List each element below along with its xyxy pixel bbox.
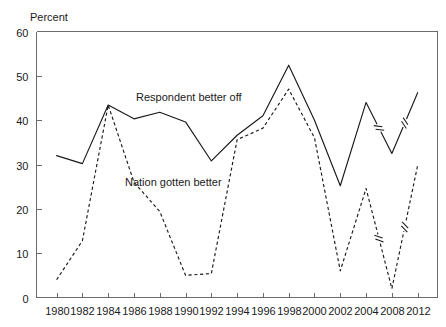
x-tick-label-2000: 2000: [302, 305, 326, 317]
x-axis-tick-labels: 1980198219841986198819901992199419961998…: [45, 305, 430, 317]
y-tick-label-50: 50: [16, 71, 28, 83]
line-chart-figure: Percent 0102030405060 198019821984198619…: [0, 0, 446, 327]
x-tick-label-1986: 1986: [122, 305, 146, 317]
series-label-respondent-better-off: Respondent better off: [136, 91, 243, 103]
y-axis-tick-labels: 0102030405060: [16, 27, 28, 305]
series-line-nation-gotten-better: [57, 89, 418, 289]
x-tick-label-1994: 1994: [225, 305, 249, 317]
x-tick-label-1988: 1988: [148, 305, 172, 317]
x-tick-label-1982: 1982: [70, 305, 94, 317]
y-axis-ticks: [37, 77, 42, 254]
x-tick-label-1984: 1984: [96, 305, 120, 317]
x-tick-label-1980: 1980: [45, 305, 69, 317]
chart-container: Percent 0102030405060 198019821984198619…: [0, 0, 446, 327]
y-tick-label-10: 10: [16, 248, 28, 260]
x-tick-label-1996: 1996: [251, 305, 275, 317]
x-tick-label-1990: 1990: [174, 305, 198, 317]
x-axis-ticks: [58, 293, 419, 298]
axis-break-gap: [377, 124, 381, 131]
x-tick-label-2004: 2004: [354, 305, 378, 317]
y-tick-label-0: 0: [22, 293, 28, 305]
x-tick-label-2008: 2008: [380, 305, 404, 317]
y-tick-label-30: 30: [16, 160, 28, 172]
series-label-nation-gotten-better: Nation gotten better: [125, 176, 222, 188]
y-tick-label-40: 40: [16, 115, 28, 127]
y-axis-unit-label: Percent: [30, 11, 68, 23]
x-tick-label-2012: 2012: [406, 305, 430, 317]
x-tick-label-1992: 1992: [199, 305, 223, 317]
x-tick-label-1998: 1998: [277, 305, 301, 317]
x-tick-label-2002: 2002: [328, 305, 352, 317]
y-tick-label-20: 20: [16, 204, 28, 216]
axis-break-slash-1: [374, 126, 383, 127]
axis-break-marks-layer: [374, 118, 408, 243]
axis-break-gap: [378, 234, 380, 242]
y-tick-label-60: 60: [16, 27, 28, 39]
axis-break-slash-2: [376, 129, 385, 130]
series-line-respondent-better-off: [57, 65, 418, 186]
